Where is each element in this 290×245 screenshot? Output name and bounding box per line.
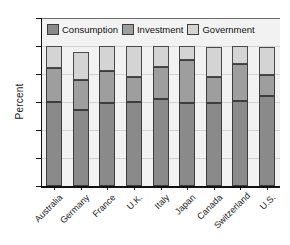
bar-segment-investment[interactable] xyxy=(259,75,275,96)
chart-legend: ConsumptionInvestmentGovernment xyxy=(45,21,257,38)
bar-segment-government[interactable] xyxy=(99,46,115,71)
bar-segment-government[interactable] xyxy=(126,46,142,77)
bar-segment-investment[interactable] xyxy=(73,80,89,111)
bar-group[interactable] xyxy=(206,18,222,186)
bar-segment-consumption[interactable] xyxy=(153,99,169,186)
legend-swatch-icon xyxy=(187,24,199,35)
bar-group[interactable] xyxy=(179,18,195,186)
x-tick-mark xyxy=(214,186,215,190)
bar-group[interactable] xyxy=(232,18,248,186)
x-tick-mark xyxy=(240,186,241,190)
bar-segment-consumption[interactable] xyxy=(259,96,275,186)
x-tick-mark xyxy=(134,186,135,190)
legend-swatch-icon xyxy=(122,24,134,35)
legend-item[interactable]: Consumption xyxy=(47,24,118,35)
legend-label: Investment xyxy=(137,25,183,35)
bar-segment-government[interactable] xyxy=(153,46,169,67)
bar-segment-investment[interactable] xyxy=(126,77,142,102)
x-tick-mark xyxy=(107,186,108,190)
legend-label: Government xyxy=(202,25,254,35)
bar-group[interactable] xyxy=(99,18,115,186)
bar-segment-government[interactable] xyxy=(259,47,275,75)
bar-group[interactable] xyxy=(73,18,89,186)
x-tick-mark xyxy=(81,186,82,190)
bar-segment-investment[interactable] xyxy=(46,68,62,102)
x-tick-mark xyxy=(161,186,162,190)
legend-item[interactable]: Investment xyxy=(122,24,183,35)
bar-segment-government[interactable] xyxy=(46,46,62,68)
bar-segment-consumption[interactable] xyxy=(232,101,248,186)
bar-series-container xyxy=(41,18,280,186)
bar-segment-government[interactable] xyxy=(206,47,222,76)
bar-segment-investment[interactable] xyxy=(153,67,169,99)
bar-segment-government[interactable] xyxy=(232,46,248,64)
bar-segment-investment[interactable] xyxy=(206,77,222,104)
bar-segment-consumption[interactable] xyxy=(126,102,142,186)
bar-segment-investment[interactable] xyxy=(232,64,248,100)
bar-segment-government[interactable] xyxy=(179,46,195,60)
bar-segment-investment[interactable] xyxy=(179,60,195,103)
bar-segment-consumption[interactable] xyxy=(46,102,62,186)
bar-segment-consumption[interactable] xyxy=(99,103,115,186)
stacked-bar-chart: Percent 020406080100120 AustraliaGermany… xyxy=(0,0,290,245)
legend-item[interactable]: Government xyxy=(187,24,254,35)
x-tick-mark xyxy=(267,186,268,190)
bar-segment-consumption[interactable] xyxy=(179,103,195,186)
bar-segment-consumption[interactable] xyxy=(206,103,222,186)
x-tick-mark xyxy=(187,186,188,190)
legend-label: Consumption xyxy=(62,25,118,35)
bar-group[interactable] xyxy=(153,18,169,186)
bar-group[interactable] xyxy=(126,18,142,186)
x-tick-mark xyxy=(54,186,55,190)
y-axis-title: Percent xyxy=(14,54,25,150)
bar-segment-consumption[interactable] xyxy=(73,110,89,186)
bar-segment-government[interactable] xyxy=(73,52,89,80)
bar-segment-investment[interactable] xyxy=(99,71,115,103)
bar-group[interactable] xyxy=(46,18,62,186)
legend-swatch-icon xyxy=(47,24,59,35)
bar-group[interactable] xyxy=(259,18,275,186)
